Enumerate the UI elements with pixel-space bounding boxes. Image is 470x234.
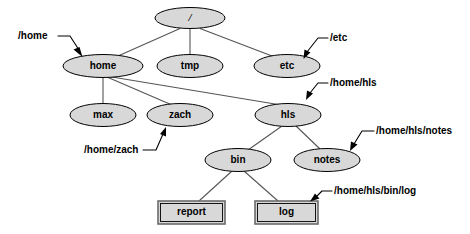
tree-nodes: / home tmp etc max zach (63, 8, 360, 225)
node-home[interactable]: home (63, 55, 143, 78)
node-etc[interactable]: etc (254, 55, 320, 78)
edge-root-home (118, 29, 180, 57)
callout-bin-log: /home/hls/bin/log (310, 185, 416, 202)
node-max-label: max (93, 109, 113, 120)
callout-home-zach-label: /home/zach (84, 144, 138, 155)
node-notes[interactable]: notes (294, 149, 360, 172)
node-etc-label: etc (280, 60, 295, 71)
node-report-label: report (177, 206, 207, 217)
callout-home-label: /home (18, 30, 48, 41)
callout-hls-notes-leader (354, 131, 374, 144)
callout-etc-label: /etc (330, 32, 348, 43)
callout-etc-leader (307, 38, 328, 52)
node-hls[interactable]: hls (255, 104, 321, 127)
node-log[interactable]: log (255, 201, 318, 224)
filesystem-tree-diagram: / home tmp etc max zach (0, 0, 470, 234)
node-tmp-label: tmp (181, 60, 199, 71)
callout-home-hls-arrowhead (306, 91, 313, 101)
node-zach-label: zach (169, 109, 191, 120)
node-log-label: log (279, 206, 294, 217)
callout-home-leader (58, 36, 79, 50)
edge-bin-log (244, 171, 278, 201)
node-tmp[interactable]: tmp (157, 55, 223, 78)
node-root[interactable]: / (155, 8, 225, 29)
node-notes-label: notes (314, 154, 341, 165)
callout-home-zach-leader (143, 134, 163, 150)
callout-home-zach: /home/zach (84, 127, 166, 155)
callout-home-zach-arrowhead (160, 127, 166, 137)
callout-hls-notes-arrowhead (350, 142, 358, 152)
callout-home-hls-leader (310, 83, 328, 93)
node-bin-label: bin (231, 154, 246, 165)
node-hls-label: hls (281, 109, 296, 120)
node-home-label: home (90, 60, 117, 71)
edge-bin-report (199, 171, 232, 201)
callout-bin-log-leader (316, 191, 332, 197)
callout-home: /home (18, 30, 83, 57)
callout-bin-log-label: /home/hls/bin/log (334, 185, 416, 196)
callout-hls-notes: /home/hls/notes (350, 125, 453, 151)
edge-root-etc (200, 29, 272, 57)
node-max[interactable]: max (70, 104, 136, 127)
edge-hls-bin (248, 126, 282, 150)
edge-home-hls (106, 76, 281, 105)
callout-etc: /etc (304, 32, 348, 59)
callout-home-hls-label: /home/hls (330, 77, 377, 88)
diagram-canvas: / home tmp etc max zach (0, 0, 470, 234)
node-report[interactable]: report (158, 201, 225, 224)
node-bin[interactable]: bin (205, 149, 271, 172)
node-zach[interactable]: zach (147, 104, 213, 127)
callout-home-arrowhead (74, 47, 83, 57)
callout-home-hls: /home/hls (306, 77, 377, 100)
edge-hls-notes (296, 126, 320, 149)
callout-hls-notes-label: /home/hls/notes (376, 125, 453, 136)
